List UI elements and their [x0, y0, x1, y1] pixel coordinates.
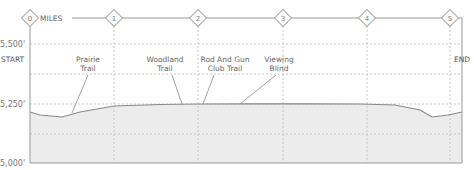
svg-text:Rod And Gun: Rod And Gun — [201, 55, 250, 64]
svg-text:Viewing: Viewing — [264, 55, 294, 64]
y-tick-5000: 5,000' — [0, 159, 25, 168]
mile-marker-0: 0 — [22, 10, 39, 27]
mile-marker-2: 2 — [190, 10, 207, 27]
annotation-woodland-trail: Woodland Trail — [146, 55, 183, 73]
svg-text:3: 3 — [281, 15, 285, 23]
svg-text:Woodland: Woodland — [146, 55, 183, 64]
y-tick-5500: 5,500' — [0, 40, 25, 49]
svg-text:Prairie: Prairie — [76, 55, 100, 64]
annotation-viewing-blind: Viewing Blind — [264, 55, 294, 73]
elevation-area — [30, 104, 462, 163]
y-tick-5250: 5,250' — [0, 100, 25, 109]
elevation-profile-chart: 0 1 2 3 4 5 MILES 5,500' 5,250' 5,000' S… — [0, 0, 474, 170]
annotation-prairie-trail: Prairie Trail — [76, 55, 100, 73]
svg-text:Trail: Trail — [79, 64, 95, 73]
svg-text:Blind: Blind — [270, 64, 289, 73]
mile-marker-3: 3 — [275, 10, 292, 27]
mile-marker-1: 1 — [106, 10, 123, 27]
svg-text:Trail: Trail — [156, 64, 172, 73]
svg-text:1: 1 — [112, 15, 116, 23]
annotation-rod-and-gun-club-trail: Rod And Gun Club Trail — [201, 55, 250, 73]
start-label: START — [1, 55, 25, 64]
svg-text:Club Trail: Club Trail — [208, 64, 243, 73]
svg-text:2: 2 — [196, 15, 200, 23]
mile-marker-5: 5 — [442, 10, 459, 27]
mile-marker-4: 4 — [359, 10, 376, 27]
svg-text:0: 0 — [28, 15, 32, 23]
miles-axis-label: MILES — [40, 14, 63, 23]
svg-text:5: 5 — [448, 15, 452, 23]
end-label: END — [454, 55, 470, 64]
svg-text:4: 4 — [365, 15, 370, 23]
